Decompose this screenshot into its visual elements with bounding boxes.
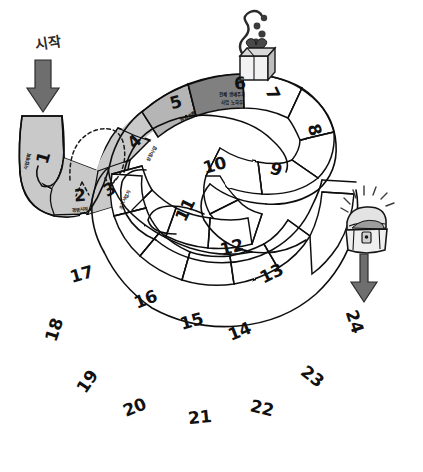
cell-23-number: 23 [297,361,328,391]
down-arrow-icon [27,60,59,112]
cell-16-number: 16 [131,285,160,312]
up-arrow-icon [351,254,377,302]
cell-21-number: 21 [187,406,213,428]
cell-14-number: 14 [225,317,255,344]
start-marker: 시작 [27,33,62,112]
cell-6-label-line1: 전체 생애주기 [219,91,246,98]
start-label: 시작 [34,33,62,53]
gift-box-icon [240,11,275,80]
board-game-canvas: 시작 [0,0,423,472]
cell-22-number: 22 [248,395,276,420]
cell-19-number: 19 [72,366,102,397]
cell-24-number: 24 [342,307,368,336]
cell-17-number: 17 [68,261,96,287]
board-path-svg: 시작 [0,0,423,472]
cell-15-number: 15 [178,308,206,334]
cell-6-number: 6 [233,73,246,94]
cell-4-label: 성장사업 [145,145,159,163]
cell-2-number: 2 [73,185,86,206]
cell-20-number: 20 [120,393,150,420]
cell-6-label-line2: 사업 노하우 [221,99,244,106]
cell-18-number: 18 [41,315,67,344]
